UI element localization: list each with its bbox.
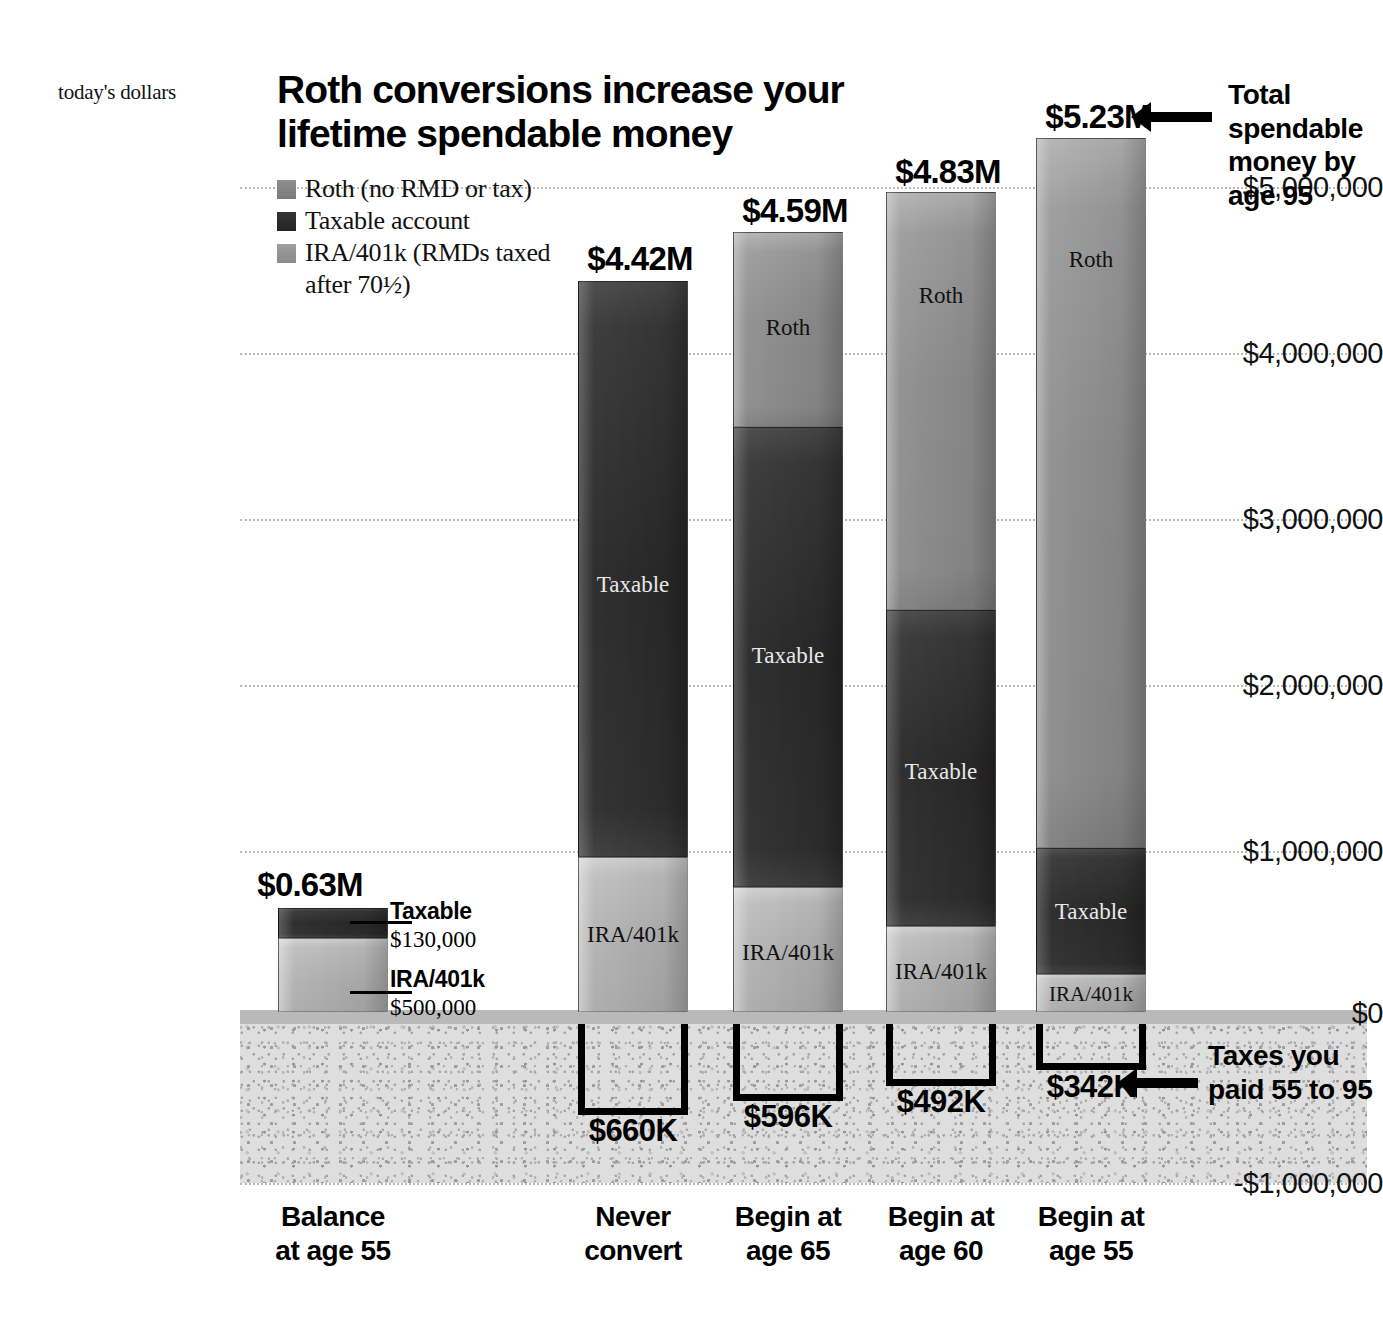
segment-roth: Roth [886,192,996,610]
category-label-never-convert: Never convert [553,1200,713,1267]
category-line1: Balance [281,1201,385,1232]
legend-swatch-roth-icon [277,180,296,199]
segment-taxable: Taxable [578,281,688,857]
chart-canvas: today's dollars $5,000,000 $4,000,000 $3… [0,0,1383,1338]
callout-taxes-paid: Taxes you paid 55 to 95 [1208,1039,1373,1106]
segment-ira: IRA/401k [1036,974,1146,1012]
arrow-left-icon-taxes [1136,1078,1198,1088]
segment-roth: Roth [1036,138,1146,848]
arrow-left-icon-total [1150,112,1212,122]
category-line2: at age 55 [275,1235,390,1266]
ytick-3000000: $3,000,000 [1169,503,1383,536]
tax-bracket-begin-age-65 [733,1024,843,1101]
category-line2: age 60 [899,1235,983,1266]
annotation-taxable-value: $130,000 [390,927,476,952]
annotation-taxable-balance: Taxable $130,000 [390,897,476,954]
ytick-2000000: $2,000,000 [1169,669,1383,702]
legend-swatch-ira-icon [277,244,296,263]
legend-label-ira: IRA/401k (RMDs taxed after 70½) [305,237,555,299]
category-label-begin-age-65: Begin at age 65 [708,1200,868,1267]
category-line2: age 55 [1049,1235,1133,1266]
tax-bracket-begin-age-55 [1036,1024,1146,1070]
segment-label-roth: Roth [887,283,995,309]
category-line2: age 65 [746,1235,830,1266]
ytick-0: $0 [1169,997,1383,1030]
bar-begin-age-65: Roth Taxable IRA/401k [733,232,843,1012]
tax-bracket-never-convert [578,1024,688,1115]
segment-label-ira: IRA/401k [887,959,995,985]
tax-value-never-convert: $660K [543,1113,723,1149]
bar-never-convert: Taxable IRA/401k [578,281,688,1012]
annotation-ira-balance: IRA/401k $500,000 [390,965,485,1022]
segment-taxable: Taxable [733,427,843,887]
segment-label-ira: IRA/401k [579,922,687,948]
category-label-begin-age-60: Begin at age 60 [861,1200,1021,1267]
category-line1: Never [595,1201,670,1232]
category-label-begin-age-55: Begin at age 55 [1011,1200,1171,1267]
segment-ira: IRA/401k [578,857,688,1012]
segment-label-roth: Roth [1037,247,1145,273]
legend-label-roth: Roth (no RMD or tax) [305,173,532,204]
segment-label-taxable: Taxable [1037,899,1145,925]
segment-taxable: Taxable [886,610,996,926]
annotation-ira-label: IRA/401k [390,966,485,992]
segment-label-ira: IRA/401k [1037,982,1145,1007]
legend-item-roth: Roth (no RMD or tax) [277,173,607,204]
bar-begin-age-60: Roth Taxable IRA/401k [886,192,996,1012]
callout-total-spendable: Total spendable money by age 95 [1228,78,1378,212]
legend-swatch-taxable-icon [277,212,296,231]
segment-ira: IRA/401k [733,887,843,1012]
segment-label-ira: IRA/401k [734,940,842,966]
bar-value-begin-age-60: $4.83M [853,153,1043,191]
annotation-taxable-label: Taxable [390,898,472,924]
bar-value-never-convert: $4.42M [545,240,735,278]
ytick-4000000: $4,000,000 [1169,337,1383,370]
ytick-neg-1000000: -$1,000,000 [1169,1167,1383,1200]
legend: Roth (no RMD or tax) Taxable account IRA… [277,173,607,301]
bar-value-balance-age-55: $0.63M [215,866,405,904]
bar-begin-age-55: Roth Taxable IRA/401k [1036,138,1146,1012]
segment-ira [278,938,388,1012]
category-line2: convert [584,1235,682,1266]
segment-label-taxable: Taxable [579,572,687,598]
axis-unit-label: today's dollars [58,80,176,105]
tax-bracket-begin-age-60 [886,1024,996,1086]
page-title: Roth conversions increase your lifetime … [277,68,897,156]
segment-label-taxable: Taxable [734,643,842,669]
legend-label-taxable: Taxable account [305,205,470,236]
legend-item-taxable: Taxable account [277,205,607,236]
bar-value-begin-age-65: $4.59M [700,192,890,230]
category-line1: Begin at [888,1201,994,1232]
segment-label-roth: Roth [734,315,842,341]
segment-label-taxable: Taxable [887,759,995,785]
category-line1: Begin at [1038,1201,1144,1232]
segment-ira: IRA/401k [886,926,996,1012]
ytick-1000000: $1,000,000 [1169,835,1383,868]
category-line1: Begin at [735,1201,841,1232]
annotation-ira-value: $500,000 [390,995,476,1020]
category-label-balance-age-55: Balance at age 55 [253,1200,413,1267]
segment-roth: Roth [733,232,843,427]
segment-taxable: Taxable [1036,848,1146,974]
